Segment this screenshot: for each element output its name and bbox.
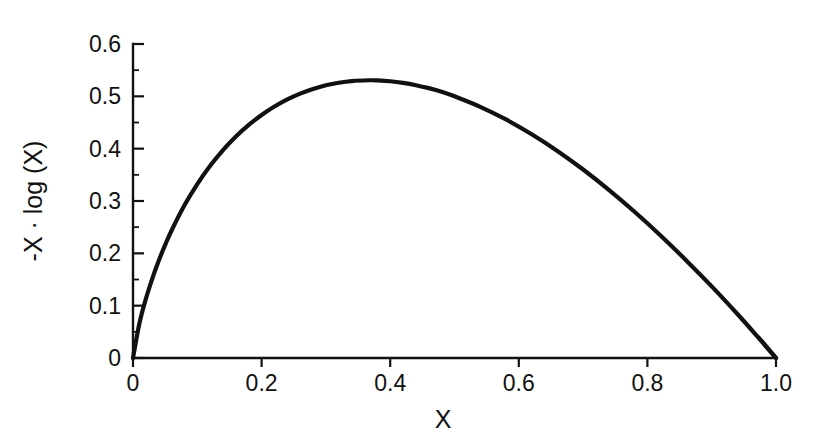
axis-lines: [133, 44, 776, 358]
x-tick-label: 0.6: [503, 370, 535, 396]
y-tick-label: 0.1: [89, 293, 121, 319]
y-tick-label: 0.4: [89, 136, 121, 162]
x-axis-tick-labels: 00.20.40.60.81.0: [127, 370, 792, 396]
y-tick-label: 0: [108, 345, 121, 371]
x-tick-label: 0.2: [246, 370, 278, 396]
figure-canvas: 00.10.20.30.40.50.6 00.20.40.60.81.0 X -…: [0, 0, 830, 436]
data-series-layer: [133, 80, 776, 358]
x-tick-label: 0: [127, 370, 140, 396]
x-axis-major-ticks: [133, 358, 776, 367]
x-axis-title: X: [435, 405, 452, 433]
y-axis-title: -X · log (X): [19, 141, 47, 262]
y-tick-label: 0.2: [89, 240, 121, 266]
x-tick-label: 0.4: [374, 370, 406, 396]
y-tick-label: 0.3: [89, 188, 121, 214]
x-tick-label: 0.8: [631, 370, 663, 396]
data-curve-neg-x-log-x: [133, 80, 776, 358]
x-tick-label: 1.0: [760, 370, 792, 396]
y-tick-label: 0.6: [89, 31, 121, 57]
line-chart: 00.10.20.30.40.50.6 00.20.40.60.81.0 X -…: [0, 0, 830, 436]
y-tick-label: 0.5: [89, 83, 121, 109]
y-axis-tick-labels: 00.10.20.30.40.50.6: [89, 31, 121, 371]
